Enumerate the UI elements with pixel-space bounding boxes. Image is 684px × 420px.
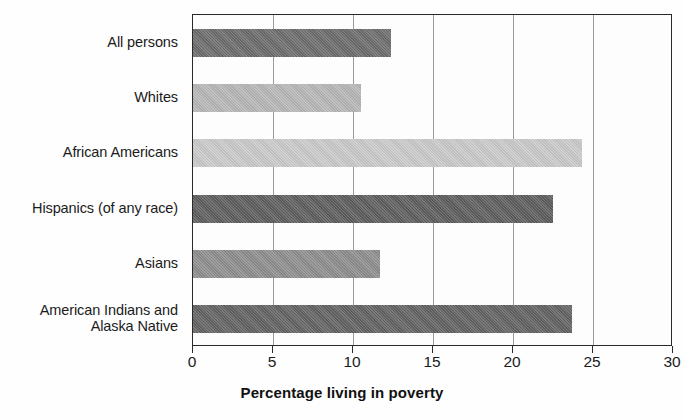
x-tick-mark bbox=[512, 346, 513, 353]
y-axis-category-labels: All personsWhitesAfrican AmericansHispan… bbox=[0, 14, 186, 346]
x-tick-mark bbox=[272, 346, 273, 353]
gridline bbox=[593, 15, 594, 345]
x-tick-label: 5 bbox=[268, 353, 277, 371]
bar bbox=[193, 195, 553, 223]
x-tick-mark bbox=[192, 346, 193, 353]
x-axis-title: Percentage living in poverty bbox=[0, 384, 684, 401]
x-tick-label: 10 bbox=[343, 353, 360, 371]
x-tick-mark bbox=[352, 346, 353, 353]
gridline bbox=[433, 15, 434, 345]
x-tick-label: 15 bbox=[423, 353, 440, 371]
y-axis-label: Whites bbox=[0, 89, 178, 105]
bar bbox=[193, 84, 361, 112]
x-tick-mark bbox=[432, 346, 433, 353]
x-axis-ticks: 051015202530 bbox=[192, 346, 672, 376]
x-tick-label: 25 bbox=[583, 353, 600, 371]
bar bbox=[193, 305, 572, 333]
y-axis-label: American Indians andAlaska Native bbox=[0, 302, 178, 334]
gridline bbox=[353, 15, 354, 345]
y-axis-label: All persons bbox=[0, 34, 178, 50]
bar bbox=[193, 29, 391, 57]
x-tick-mark bbox=[672, 346, 673, 353]
gridline bbox=[273, 15, 274, 345]
y-axis-label: African Americans bbox=[0, 144, 178, 160]
bar bbox=[193, 250, 380, 278]
y-axis-label: Asians bbox=[0, 255, 178, 271]
poverty-bar-chart: All personsWhitesAfrican AmericansHispan… bbox=[0, 0, 684, 420]
x-tick-label: 0 bbox=[188, 353, 197, 371]
gridline bbox=[513, 15, 514, 345]
x-tick-label: 30 bbox=[663, 353, 680, 371]
y-axis-label: Hispanics (of any race) bbox=[0, 200, 178, 216]
bar bbox=[193, 139, 582, 167]
x-tick-label: 20 bbox=[503, 353, 520, 371]
x-tick-mark bbox=[592, 346, 593, 353]
plot-area bbox=[192, 14, 672, 346]
